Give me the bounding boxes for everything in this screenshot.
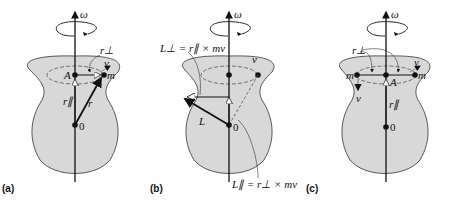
origin-label: 0 xyxy=(390,121,396,133)
m-right-label: m xyxy=(418,69,426,81)
mass-m xyxy=(101,72,107,78)
origin-label: 0 xyxy=(79,120,85,132)
rotation-arrow xyxy=(56,22,96,36)
origin-label: 0 xyxy=(233,121,239,133)
angular-momentum-diagram: ω r⊥ v A m r∥ r 0 (a) ω v L 0 xyxy=(0,0,452,208)
r-perp-label: r⊥ xyxy=(100,44,114,56)
r-par-label: r∥ xyxy=(63,95,74,108)
a-label: A xyxy=(63,69,71,81)
rotation-arrow xyxy=(367,22,407,36)
omega-label: ω xyxy=(80,8,88,20)
m-left-label: m xyxy=(346,69,354,81)
L-perp-equation: L⊥ = r∥ × mv xyxy=(159,42,225,55)
panel-b: ω v L 0 L⊥ = r∥ × mv L∥ = r⊥ × mv (b) xyxy=(150,8,297,194)
mass-m-right xyxy=(412,72,418,78)
panel-a: ω r⊥ v A m r∥ r 0 (a) xyxy=(2,8,120,194)
L-par-equation: L∥ = r⊥ × mv xyxy=(231,178,297,191)
point-a xyxy=(226,72,232,78)
a-label: A xyxy=(389,76,397,88)
v-label: v xyxy=(252,53,257,65)
point-a xyxy=(72,72,78,78)
mass-m-left xyxy=(354,72,360,78)
r-perp-label: r⊥ xyxy=(352,44,366,56)
point-a xyxy=(383,72,389,78)
panel-a-label: (a) xyxy=(2,183,14,194)
panel-c-label: (c) xyxy=(306,183,318,194)
m-label: m xyxy=(107,69,115,81)
L-label: L xyxy=(198,115,205,127)
v-left-label: v xyxy=(356,92,361,104)
rotation-arrow xyxy=(210,22,250,36)
panel-b-label: (b) xyxy=(150,183,163,194)
omega-label: ω xyxy=(234,8,242,20)
r-par-label: r∥ xyxy=(389,98,400,111)
origin-point xyxy=(383,124,389,130)
origin-point xyxy=(226,122,232,128)
omega-label: ω xyxy=(391,8,399,20)
v-right-label: v xyxy=(414,56,419,68)
panel-c: ω r⊥ v v m m A r∥ 0 (c) xyxy=(306,8,430,194)
v-label: v xyxy=(104,57,109,69)
origin-point xyxy=(72,122,78,128)
r-label: r xyxy=(88,97,93,109)
